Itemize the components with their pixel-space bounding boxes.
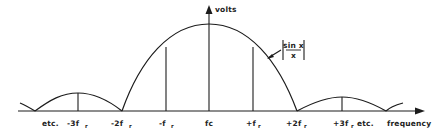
svg-text:+f: +f <box>246 119 256 128</box>
svg-text:r: r <box>171 123 174 129</box>
tick-label-plus-2fr: +2f r <box>286 119 307 129</box>
svg-text:-f: -f <box>159 119 166 128</box>
svg-text:-2f: -2f <box>111 119 124 128</box>
svg-text:r: r <box>304 123 307 129</box>
svg-text:r: r <box>129 123 132 129</box>
sin-numerator: sin x <box>283 41 304 50</box>
svg-text:+2f: +2f <box>286 119 302 128</box>
diagram-canvas: sin x x volts frequency etc. -3f r -2f r… <box>0 0 440 136</box>
svg-text:etc.: etc. <box>357 119 374 128</box>
tick-label-plus-fr: +f r <box>246 119 261 129</box>
volts-label: volts <box>215 5 237 14</box>
svg-text:+3f: +3f <box>333 119 349 128</box>
svg-text:r: r <box>258 123 261 129</box>
tick-label-minus-3fr: -3f r <box>67 119 88 129</box>
tick-label-fc: fc <box>205 119 213 128</box>
volts-axis-arrow-icon <box>206 5 213 14</box>
tick-label-plus-3fr-etc: +3f r etc. <box>333 119 374 129</box>
frequency-axis-arrow-icon <box>415 108 425 115</box>
tick-label-etc-left: etc. <box>42 119 59 128</box>
left-tail-curve <box>20 103 35 111</box>
tick-label-minus-2fr: -2f r <box>111 119 132 129</box>
svg-text:-3f: -3f <box>67 119 80 128</box>
sinc-spectrum-diagram: sin x x volts frequency etc. -3f r -2f r… <box>0 0 440 136</box>
sin-denominator: x <box>291 51 296 60</box>
tick-label-minus-fr: -f r <box>159 119 174 129</box>
svg-text:r: r <box>351 123 354 129</box>
svg-text:r: r <box>85 123 88 129</box>
right-tail-curve <box>386 103 403 111</box>
frequency-label: frequency <box>387 119 431 128</box>
